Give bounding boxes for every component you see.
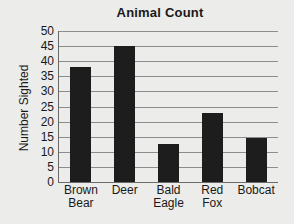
gridline [59, 107, 278, 108]
y-axis-tick-label: 50 [12, 25, 54, 37]
x-axis-category-label-line: Fox [185, 197, 239, 210]
plot-area [59, 31, 278, 182]
bar [202, 113, 223, 182]
x-axis-category-labels: BrownBearDeerBaldEagleRedFoxBobcat [59, 184, 278, 222]
bar-chart-figure: Animal Count Number Sighted 051015202530… [0, 0, 294, 224]
y-axis-tick-label: 10 [12, 146, 54, 158]
chart-title: Animal Count [40, 5, 280, 20]
gridline [59, 61, 278, 62]
bar [246, 138, 267, 182]
y-axis-tick-label: 15 [12, 131, 54, 143]
gridline [59, 91, 278, 92]
gridline [59, 76, 278, 77]
gridline [59, 31, 278, 32]
y-axis-tick-label: 35 [12, 70, 54, 82]
y-axis-tick-label: 20 [12, 116, 54, 128]
bar [158, 144, 179, 182]
gridline [59, 122, 278, 123]
x-axis-category-label-line: Bear [54, 197, 108, 210]
gridline [59, 46, 278, 47]
y-axis-tick-label: 40 [12, 55, 54, 67]
bar [70, 67, 91, 182]
y-axis-tick-label: 5 [12, 161, 54, 173]
x-axis-category-label-line: Bobcat [229, 184, 283, 197]
y-axis-tick-label: 30 [12, 85, 54, 97]
y-axis-tick-label: 0 [12, 176, 54, 188]
y-axis-tick-labels: 05101520253035404550 [8, 31, 54, 182]
y-axis-tick-label: 25 [12, 101, 54, 113]
x-axis-category-label: Bobcat [229, 184, 283, 197]
bar [114, 46, 135, 182]
y-axis-tick-label: 45 [12, 40, 54, 52]
